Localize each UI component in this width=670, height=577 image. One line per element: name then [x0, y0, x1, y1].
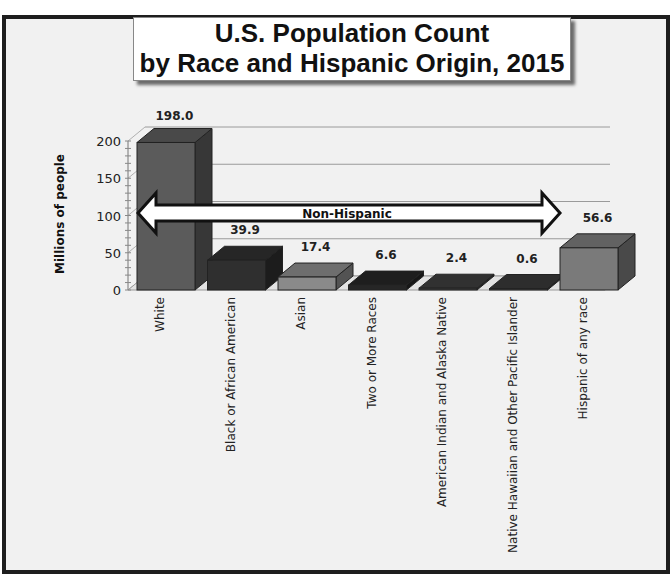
- x-tick-label: American Indian and Alaska Native: [435, 297, 449, 507]
- annotation-label: Non-Hispanic: [302, 207, 392, 221]
- y-tick-label: 100: [96, 209, 121, 224]
- y-tick-label: 200: [96, 134, 121, 149]
- data-label: 39.9: [230, 223, 260, 237]
- data-label: 56.6: [583, 211, 613, 225]
- data-labels: 198.039.917.46.62.40.656.6: [156, 109, 613, 265]
- x-tick-label: Native Hawaiian and Other Pacific Island…: [506, 297, 520, 553]
- y-axis: 050100150200: [96, 134, 131, 298]
- x-tick-label: Two or More Races: [365, 297, 379, 410]
- x-tick-label: Hispanic of any race: [576, 297, 590, 419]
- data-label: 0.6: [516, 252, 537, 266]
- x-axis-labels: WhiteBlack or African AmericanAsianTwo o…: [153, 297, 590, 553]
- bar-chart: 050100150200 Non-Hispanic 198.039.917.46…: [0, 0, 670, 577]
- data-label: 6.6: [375, 248, 396, 262]
- y-tick-label: 0: [113, 283, 121, 298]
- x-tick-label: Black or African American: [224, 297, 238, 452]
- y-axis-title: Millions of people: [53, 154, 67, 274]
- data-label: 17.4: [301, 240, 331, 254]
- bar-6: [560, 234, 635, 290]
- x-tick-label: White: [153, 297, 167, 332]
- y-tick-label: 50: [104, 246, 121, 261]
- x-tick-label: Asian: [294, 297, 308, 330]
- bar-1: [208, 246, 283, 290]
- data-label: 198.0: [156, 109, 194, 123]
- data-label: 2.4: [446, 251, 467, 265]
- y-tick-label: 150: [96, 171, 121, 186]
